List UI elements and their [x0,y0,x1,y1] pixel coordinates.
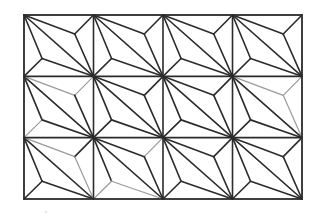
edge-b-bl [233,181,251,199]
edge-tl-a [94,15,145,34]
edge-b-br [42,181,93,199]
edge-tl-a [163,15,214,34]
edge-b-br [181,59,232,77]
edge-a-tr [75,138,94,157]
edge-b-br [112,59,163,77]
edge-b-br [112,181,163,199]
edge-b-br [251,181,302,199]
edge-tl-a [94,138,145,157]
edge-b-bl [24,120,42,138]
edge-b-bl [163,59,181,77]
pattern-cell [163,138,233,199]
edge-a-tr [214,15,233,34]
edge-b-bl [233,120,251,138]
edge-tl-a [163,138,214,157]
pattern-cell [94,138,164,199]
edge-b-br [42,59,93,77]
edge-b-bl [24,181,42,199]
pattern-cell [24,15,94,76]
edge-b-bl [233,59,251,77]
edge-tl-br [94,138,164,199]
pattern-cell [233,138,303,199]
pattern-cell [24,138,94,199]
edge-tl-a [94,76,145,95]
edge-b-br [251,59,302,77]
edge-b-bl [94,59,112,77]
edge-a-tr [144,76,163,95]
edge-tl-b [233,76,251,120]
edge-b-bl [163,181,181,199]
edge-tl-a [233,76,284,95]
edge-a-tr [144,138,163,157]
pattern-cell [94,15,164,76]
kite-tessellation-diagram [0,0,327,219]
edge-a-tr [283,15,302,34]
edge-b-br [42,120,93,138]
edge-a-tr [283,138,302,157]
edge-a-tr [75,76,94,95]
edge-b-bl [163,120,181,138]
edge-tl-a [163,76,214,95]
edge-tl-a [24,76,75,95]
edge-a-tr [214,138,233,157]
edge-b-br [251,120,302,138]
edge-a-tr [144,15,163,34]
edge-b-bl [94,181,112,199]
edge-tl-a [24,138,75,157]
pattern-cell [24,76,94,137]
grid-lines [24,15,302,199]
edge-a-tr [214,76,233,95]
pattern-cell [163,15,233,76]
edge-tl-a [233,15,284,34]
edge-b-br [112,120,163,138]
edge-b-br [181,120,232,138]
edge-a-tr [283,76,302,95]
edge-tl-b [24,76,42,120]
edge-tl-a [24,15,75,34]
edge-b-bl [94,120,112,138]
pattern-cell [233,15,303,76]
pattern-cell [94,76,164,137]
edge-tl-b [24,138,42,182]
edge-b-br [181,181,232,199]
pattern-cell [233,76,303,137]
pattern-cell [163,76,233,137]
edge-a-br [144,157,163,199]
edge-tl-a [233,138,284,157]
edge-a-tr [75,15,94,34]
edge-tl-br [24,76,94,137]
stray-speck [45,211,47,213]
edge-b-bl [24,59,42,77]
